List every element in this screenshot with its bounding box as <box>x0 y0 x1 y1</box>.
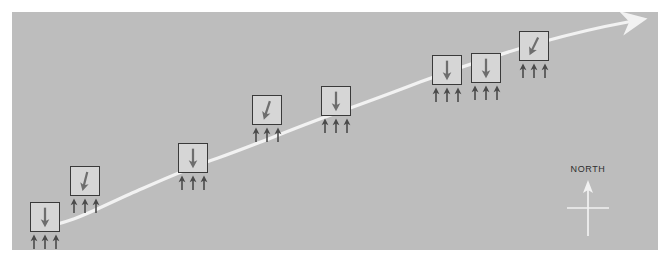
up-arrow-3 <box>344 118 351 133</box>
up-arrow-3 <box>455 87 462 102</box>
up-arrow-1 <box>179 175 186 190</box>
up-arrow-1 <box>520 63 527 78</box>
station-box-5[interactable] <box>321 86 351 116</box>
station-box-1[interactable] <box>30 202 60 232</box>
down-arrow-icon <box>433 56 461 84</box>
station-box-3[interactable] <box>178 143 208 173</box>
up-arrow-2 <box>264 127 271 142</box>
up-arrow-1 <box>322 118 329 133</box>
station-box-2[interactable] <box>70 166 100 196</box>
up-arrow-1 <box>31 234 38 249</box>
station-box-4[interactable] <box>252 95 282 125</box>
compass-north-label: NORTH <box>560 164 616 174</box>
down-arrow-icon <box>520 32 548 60</box>
upwelling-arrows <box>68 197 102 214</box>
upwelling-arrows <box>28 233 62 250</box>
down-arrow-icon <box>71 167 99 195</box>
station-box-6[interactable] <box>432 55 462 85</box>
upwelling-arrows <box>250 126 284 143</box>
up-arrow-1 <box>433 87 440 102</box>
upwelling-arrows <box>176 174 210 191</box>
up-arrow-2 <box>444 87 451 102</box>
up-arrow-1 <box>472 85 479 100</box>
down-arrow-icon <box>179 144 207 172</box>
up-arrow-2 <box>190 175 197 190</box>
up-arrow-2 <box>531 63 538 78</box>
upwelling-arrows <box>469 84 503 101</box>
up-arrow-3 <box>201 175 208 190</box>
station-box-7[interactable] <box>471 53 501 83</box>
up-arrow-1 <box>253 127 260 142</box>
diagram-panel: NORTH <box>12 12 658 250</box>
down-arrow-icon <box>253 96 281 124</box>
upwelling-arrows <box>319 117 353 134</box>
upwelling-arrows <box>517 62 551 79</box>
up-arrow-2 <box>333 118 340 133</box>
up-arrow-3 <box>93 198 100 213</box>
up-arrow-1 <box>71 198 78 213</box>
up-arrow-2 <box>42 234 49 249</box>
station-box-8[interactable] <box>519 31 549 61</box>
figure-canvas: NORTH <box>0 0 670 262</box>
compass-rose: NORTH <box>560 164 616 238</box>
upwelling-arrows <box>430 86 464 103</box>
up-arrow-3 <box>275 127 282 142</box>
down-arrow-icon <box>31 203 59 231</box>
down-arrow-icon <box>472 54 500 82</box>
down-arrow-icon <box>322 87 350 115</box>
up-arrow-3 <box>542 63 549 78</box>
up-arrow-2 <box>82 198 89 213</box>
up-arrow-2 <box>483 85 490 100</box>
up-arrow-3 <box>494 85 501 100</box>
up-arrow-3 <box>53 234 60 249</box>
compass-cross-icon <box>560 176 616 238</box>
